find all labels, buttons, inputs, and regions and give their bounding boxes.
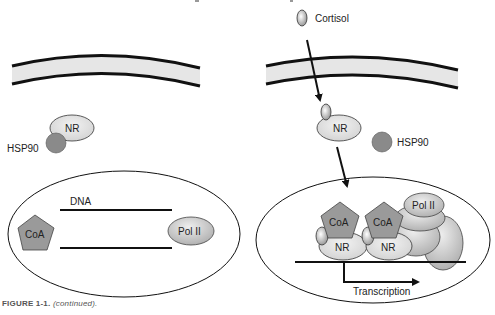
cell-membrane-right	[266, 57, 458, 88]
figure-canvas: NR HSP90 DNA CoA Pol II Cortisol NR	[0, 0, 495, 315]
transcription-arrow	[344, 262, 418, 282]
pol2-complex: Pol II	[392, 193, 463, 270]
transcription-label: Transcription	[353, 286, 410, 297]
dna-label: DNA	[70, 196, 91, 207]
hsp90-left	[46, 133, 66, 153]
cortisol-bound	[321, 104, 331, 120]
nr-label-dimer-2: NR	[381, 242, 395, 253]
hsp90-label-right: HSP90	[397, 137, 429, 148]
coa-label-right-2: CoA	[373, 217, 393, 228]
hsp90-right	[372, 132, 392, 152]
caption-text: (continued).	[53, 299, 98, 308]
caption-label: FIGURE 1-1.	[2, 299, 50, 308]
right-panel: Cortisol NR HSP90 Pol II	[256, 10, 490, 303]
left-panel: NR HSP90 DNA CoA Pol II	[7, 55, 240, 297]
cell-membrane-left	[12, 55, 200, 86]
figure-caption: FIGURE 1-1. (continued).	[2, 299, 98, 308]
cortisol-molecule	[297, 10, 307, 26]
cortisol-label: Cortisol	[315, 13, 349, 24]
coa-label-right-1: CoA	[329, 217, 349, 228]
nr-label-left: NR	[65, 123, 79, 134]
nr-label-right: NR	[333, 123, 347, 134]
hsp90-label-left: HSP90	[7, 143, 39, 154]
arrow-nuclear-translocation	[337, 147, 347, 186]
pol2-label-left: Pol II	[178, 226, 201, 237]
cropped-title-fragment	[195, 0, 293, 2]
coa-label-left: CoA	[25, 229, 45, 240]
pol2-label-right: Pol II	[412, 200, 435, 211]
nr-label-dimer-1: NR	[335, 242, 349, 253]
